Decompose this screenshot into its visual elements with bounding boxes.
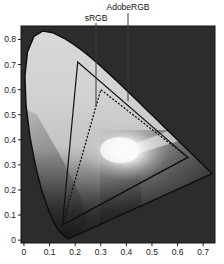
chromaticity-plot: sRGB AdobeRGB 00.10.20.30.40.50.60.7 00.… <box>0 0 224 264</box>
y-tick-label: 0.3 <box>4 160 16 170</box>
y-tick-label: 0.7 <box>4 60 16 70</box>
x-tick-label: 0.6 <box>172 247 184 257</box>
y-tick-label: 0.6 <box>4 85 16 95</box>
y-tick-label: 0.2 <box>4 185 16 195</box>
x-tick-label: 0.4 <box>120 247 132 257</box>
x-tick-label: 0.1 <box>44 247 56 257</box>
x-axis: 00.10.20.30.40.50.60.7 <box>22 243 210 257</box>
adobergb-label: AdobeRGB <box>107 2 150 12</box>
x-tick-label: 0.5 <box>146 247 158 257</box>
y-tick-label: 0.8 <box>4 34 16 44</box>
y-axis: 00.10.20.30.40.50.60.70.8 <box>4 34 21 245</box>
y-tick-label: 0.4 <box>4 135 16 145</box>
x-tick-label: 0.2 <box>69 247 81 257</box>
x-tick-label: 0.3 <box>95 247 107 257</box>
y-tick-label: 0.1 <box>4 210 16 220</box>
chromaticity-diagram-figure: sRGB AdobeRGB 00.10.20.30.40.50.60.7 00.… <box>0 0 224 264</box>
x-tick-label: 0 <box>22 247 27 257</box>
y-tick-label: 0.5 <box>4 110 16 120</box>
y-tick-label: 0 <box>11 235 16 245</box>
srgb-label: sRGB <box>85 13 108 23</box>
x-tick-label: 0.7 <box>197 247 209 257</box>
